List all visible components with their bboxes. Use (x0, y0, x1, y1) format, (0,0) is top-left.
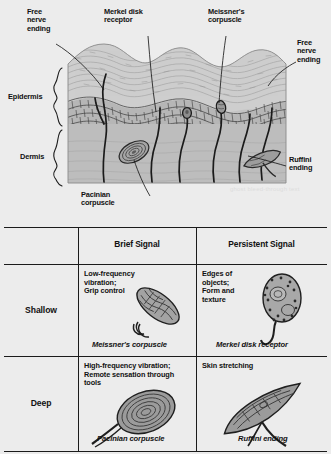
cell-deep-persistent-function: Skin stretching (202, 362, 292, 371)
column-header-brief-signal: Brief Signal (78, 239, 196, 249)
cell-shallow-brief-artwork (122, 278, 194, 344)
row-header-shallow: Shallow (4, 305, 78, 315)
ghost-text: ghost bleed-through text (230, 186, 300, 192)
column-header-persistent-signal: Persistent Signal (196, 239, 327, 249)
table-col-rule-2 (196, 227, 197, 452)
cell-shallow-persistent-receptor: Merkel disk receptor (216, 340, 288, 349)
row-header-deep: Deep (4, 398, 78, 408)
figure-page: Free nerve ending Merkel disk receptor M… (0, 0, 331, 454)
mechanoreceptor-table: Brief Signal Persistent Signal Shallow D… (0, 222, 331, 454)
cell-shallow-brief-receptor: Meissner's corpuscle (92, 340, 167, 349)
callout-merkel-disk-receptor: Merkel disk receptor (104, 8, 166, 25)
callout-meissners-corpuscle: Meissner's corpuscle (208, 8, 272, 25)
callout-free-nerve-ending-right: Free nerve ending (297, 39, 331, 64)
table-top-rule (4, 227, 327, 228)
callout-ruffini-ending: Ruffini ending (289, 156, 329, 173)
table-header-rule (4, 264, 327, 265)
cell-deep-persistent-receptor: Ruffini ending (238, 434, 288, 443)
cell-shallow-persistent-artwork (248, 270, 318, 348)
layer-label-epidermis: Epidermis (8, 93, 42, 101)
table-col-rule-1 (78, 227, 79, 452)
callout-free-nerve-ending-left: Free nerve ending (27, 8, 73, 33)
table-mid-rule (4, 356, 327, 357)
callout-pacinian-corpuscle: Pacinian corpuscle (81, 191, 129, 208)
cell-deep-brief-receptor: Pacinian corpuscle (97, 434, 164, 443)
layer-label-dermis: Dermis (20, 153, 44, 161)
